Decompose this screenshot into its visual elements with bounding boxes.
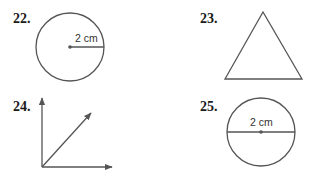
diameter-label: 2 cm	[250, 116, 273, 128]
problem-24-angle-figure	[42, 98, 112, 167]
diagonal-ray-arrow-icon	[42, 113, 91, 167]
center-point	[259, 130, 263, 134]
figures-canvas: 2 cm 2 cm	[0, 0, 326, 186]
radius-label: 2 cm	[75, 32, 98, 44]
problem-25-circle-figure: 2 cm	[227, 98, 295, 166]
problem-23-triangle-figure	[225, 12, 302, 79]
problem-22-circle-figure: 2 cm	[36, 13, 104, 81]
center-point	[68, 45, 72, 49]
